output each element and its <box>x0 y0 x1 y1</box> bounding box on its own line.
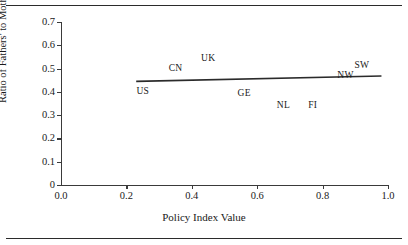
y-tick-label: 0.5 <box>42 63 55 74</box>
data-point-label-nw: NW <box>337 71 353 81</box>
data-point-label-cn: CN <box>169 64 183 74</box>
data-point-label-ge: GE <box>238 89 251 99</box>
top-rule <box>6 5 402 6</box>
data-point-label-uk: UK <box>201 55 215 65</box>
data-point-label-us: US <box>136 87 149 97</box>
data-point-label-sw: SW <box>355 61 370 71</box>
x-tick-label: 0.0 <box>54 191 67 202</box>
y-tick-label: 0 <box>50 180 55 191</box>
y-tick-label: 0.3 <box>42 110 55 121</box>
x-tick-label: 0.6 <box>251 191 264 202</box>
x-tick <box>388 185 389 189</box>
x-tick <box>257 185 258 189</box>
x-tick <box>126 185 127 189</box>
x-tick <box>323 185 324 189</box>
y-axis-title: Ratio of Fathers' to Mothers' Hours <box>0 0 8 103</box>
x-axis-line <box>61 185 388 186</box>
plot-area: 00.10.20.30.40.50.60.7 0.00.20.40.60.81.… <box>61 22 388 185</box>
y-tick-label: 0.2 <box>42 133 55 144</box>
y-tick-label: 0.7 <box>42 17 55 28</box>
data-point-label-nl: NL <box>277 101 290 111</box>
y-tick-label: 0.1 <box>42 156 55 167</box>
data-point-label-fi: FI <box>308 101 317 111</box>
y-tick-label: 0.6 <box>42 40 55 51</box>
bottom-rule <box>6 238 402 239</box>
x-tick-label: 0.8 <box>316 191 329 202</box>
figure-container: Ratio of Fathers' to Mothers' Hours Poli… <box>0 0 408 245</box>
x-axis-title: Policy Index Value <box>162 211 246 223</box>
y-tick-label: 0.4 <box>42 87 55 98</box>
x-tick-label: 0.2 <box>120 191 133 202</box>
trend-line <box>61 22 388 185</box>
x-tick-label: 0.4 <box>185 191 198 202</box>
x-tick-label: 1.0 <box>381 191 394 202</box>
y-tick <box>57 185 61 186</box>
x-tick <box>192 185 193 189</box>
